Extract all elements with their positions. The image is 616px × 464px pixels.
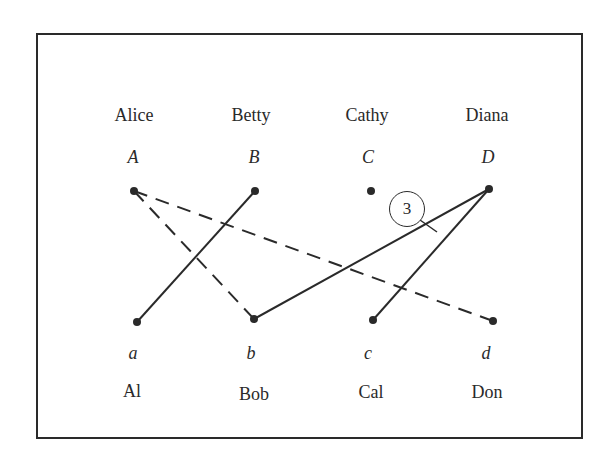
- node-A: [130, 187, 138, 195]
- node-C: [367, 187, 375, 195]
- edge-A-d: [134, 191, 493, 321]
- node-a: [133, 318, 141, 326]
- edge-D-b: [254, 189, 489, 319]
- bottom-name-don: Don: [472, 382, 503, 403]
- top-name-cathy: Cathy: [346, 105, 389, 126]
- top-var-A: A: [128, 147, 139, 168]
- bottom-name-bob: Bob: [239, 384, 269, 405]
- bottom-var-d: d: [482, 343, 491, 364]
- bottom-var-b: b: [247, 343, 256, 364]
- edge-A-b: [134, 191, 254, 319]
- bottom-var-a: a: [129, 343, 138, 364]
- matching-graph: [0, 0, 616, 464]
- top-var-C: C: [362, 147, 374, 168]
- top-name-alice: Alice: [115, 105, 154, 126]
- node-d: [489, 317, 497, 325]
- top-name-diana: Diana: [466, 105, 509, 126]
- bottom-var-c: c: [364, 343, 372, 364]
- top-var-D: D: [482, 147, 495, 168]
- node-c: [369, 316, 377, 324]
- top-name-betty: Betty: [232, 105, 271, 126]
- bottom-name-cal: Cal: [359, 382, 384, 403]
- node-D: [485, 185, 493, 193]
- bottom-name-al: Al: [123, 381, 141, 402]
- node-b: [250, 315, 258, 323]
- callout-badge: 3: [389, 191, 425, 227]
- node-B: [251, 187, 259, 195]
- top-var-B: B: [249, 147, 260, 168]
